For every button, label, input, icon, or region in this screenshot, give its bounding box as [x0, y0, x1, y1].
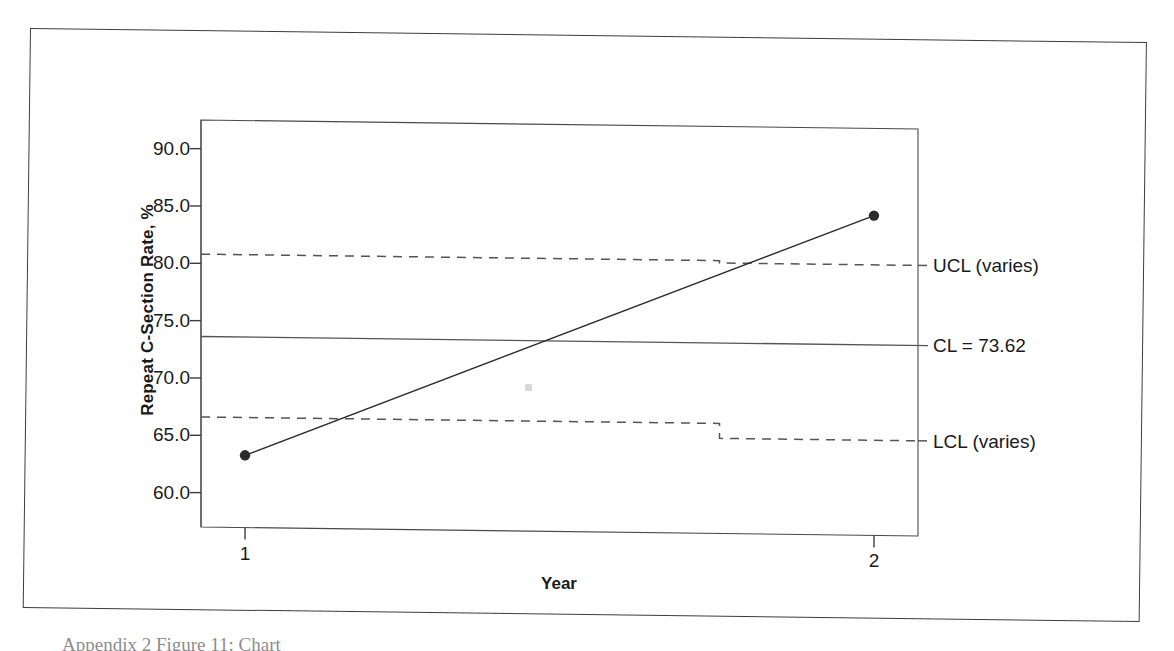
center-line: [201, 336, 928, 345]
plot-area: [0, 0, 1174, 651]
upper-control-limit-line: [201, 254, 918, 265]
scan-artifact-speck: [525, 384, 532, 391]
figure-caption: Appendix 2 Figure 11: Chart: [62, 634, 281, 651]
plot-frame: [201, 120, 918, 536]
control-chart: Repeat C-Section Rate, % 60.065.070.075.…: [0, 0, 1174, 651]
data-point-marker[interactable]: [869, 210, 879, 220]
data-point-marker[interactable]: [240, 450, 250, 460]
ucl-label: UCL (varies): [933, 256, 1039, 275]
lcl-label: LCL (varies): [933, 431, 1036, 450]
lower-control-limit-line: [201, 417, 918, 441]
center-line-label: CL = 73.62: [933, 336, 1026, 355]
data-series-line: [245, 216, 874, 456]
